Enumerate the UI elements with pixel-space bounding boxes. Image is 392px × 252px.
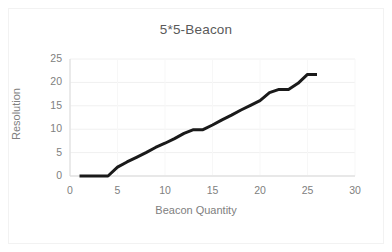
gridlines [70,59,355,176]
x-tick-label-5: 5 [104,184,132,196]
y-tick-label-10: 10 [38,122,62,134]
x-tick-label-15: 15 [199,184,227,196]
series-line-0 [80,74,318,176]
x-axis-title: Beacon Quantity [0,204,392,216]
data-series-group [80,74,318,176]
chart-figure: 5*5-Beacon 0510152025 051015202530 Resol… [0,0,392,252]
x-tick-label-25: 25 [294,184,322,196]
y-tick-label-25: 25 [38,52,62,64]
y-axis-title: Resolution [10,74,22,154]
x-tick-label-10: 10 [151,184,179,196]
x-tick-label-30: 30 [341,184,369,196]
x-tick-label-0: 0 [56,184,84,196]
x-tick-label-20: 20 [246,184,274,196]
y-tick-label-5: 5 [38,146,62,158]
y-tick-label-15: 15 [38,99,62,111]
y-tick-label-20: 20 [38,75,62,87]
y-tick-label-0: 0 [38,169,62,181]
